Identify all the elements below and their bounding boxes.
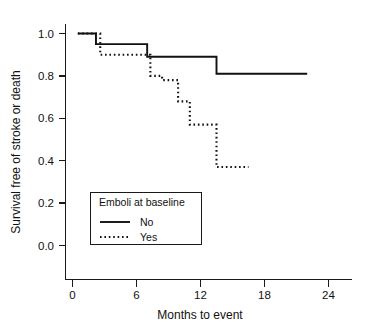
x-tick-marks <box>73 280 329 287</box>
series-no-line <box>78 34 307 74</box>
x-tick-label-0: 0 <box>69 289 75 301</box>
legend-label-no: No <box>140 216 154 228</box>
series-yes-line <box>78 34 249 168</box>
y-tick-labels: 1.0 0.8 0.6 0.4 0.2 0.0 <box>38 28 55 252</box>
data-curves <box>78 34 307 168</box>
y-tick-label-0.2: 0.2 <box>38 197 54 209</box>
legend-label-yes: Yes <box>140 231 157 243</box>
x-tick-label-18: 18 <box>258 289 271 301</box>
x-tick-label-6: 6 <box>133 289 139 301</box>
x-axis-title: Months to event <box>157 308 243 322</box>
legend-title: Emboli at baseline <box>99 196 185 208</box>
y-tick-label-0.8: 0.8 <box>38 70 54 82</box>
x-tick-label-12: 12 <box>194 289 207 301</box>
y-tick-label-1.0: 1.0 <box>38 28 54 40</box>
y-tick-label-0.4: 0.4 <box>38 155 55 167</box>
y-tick-marks <box>59 34 66 246</box>
x-tick-labels: 0 6 12 18 24 <box>69 289 335 301</box>
x-tick-label-24: 24 <box>322 289 335 301</box>
y-tick-label-0.0: 0.0 <box>38 240 54 252</box>
chart-canvas: 1.0 0.8 0.6 0.4 0.2 0.0 0 6 12 18 24 Mon… <box>0 0 366 327</box>
y-tick-label-0.6: 0.6 <box>38 112 54 124</box>
y-axis-title: Survival free of stroke or death <box>9 70 23 233</box>
legend: Emboli at baseline No Yes <box>91 193 202 245</box>
survival-chart-figure: 1.0 0.8 0.6 0.4 0.2 0.0 0 6 12 18 24 Mon… <box>0 0 366 327</box>
